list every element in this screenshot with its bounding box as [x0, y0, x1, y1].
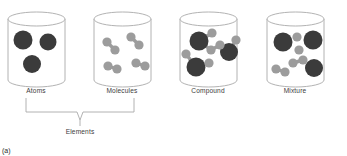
particle-small-compound-7	[181, 49, 190, 58]
label-elements-group: Elements	[66, 128, 95, 135]
figure-root: AtomsMoleculesCompoundMixtureElements(a)	[0, 0, 347, 156]
label-mixture: Mixture	[284, 87, 307, 94]
particle-large-mixture-2	[305, 59, 323, 77]
particle-small-molecules-5	[112, 64, 121, 73]
particle-small-molecules-1	[110, 45, 119, 54]
particle-large-compound-0	[190, 32, 209, 51]
figure-caption: (a)	[2, 147, 11, 155]
particle-small-mixture-4	[294, 45, 303, 54]
particle-large-atoms-1	[40, 34, 57, 51]
particle-small-molecules-3	[134, 40, 143, 49]
container-atoms	[8, 12, 65, 87]
vessels-layer	[8, 12, 324, 87]
particle-small-molecules-2	[126, 32, 135, 41]
vessel-rim-atoms	[8, 12, 65, 26]
particle-small-mixture-6	[288, 58, 297, 67]
particle-small-compound-5	[231, 35, 240, 44]
particle-small-compound-1	[207, 28, 216, 37]
labels-layer: AtomsMoleculesCompoundMixtureElements(a)	[2, 87, 307, 155]
particle-small-compound-4	[215, 40, 224, 49]
vessel-rim-molecules	[94, 12, 151, 26]
container-compound	[180, 12, 241, 87]
particle-small-compound-2	[206, 45, 215, 54]
vessel-body-atoms	[8, 19, 65, 87]
particle-large-atoms-0	[14, 31, 33, 50]
vessel-rim-mixture	[267, 12, 324, 26]
label-molecules: Molecules	[106, 87, 138, 94]
particle-small-molecules-7	[140, 61, 149, 70]
label-compound: Compound	[191, 87, 225, 95]
particle-small-molecules-0	[102, 37, 111, 46]
vessel-rim-compound	[180, 12, 237, 26]
elements-brace	[26, 98, 134, 126]
particle-small-mixture-7	[271, 64, 280, 73]
particle-large-mixture-1	[304, 31, 323, 50]
brace-elements	[26, 98, 134, 120]
particle-small-mixture-5	[298, 55, 307, 64]
particle-large-mixture-0	[274, 33, 293, 52]
chemistry-classification-diagram: AtomsMoleculesCompoundMixtureElements(a)	[0, 0, 347, 156]
container-molecules	[94, 12, 151, 87]
label-atoms: Atoms	[26, 87, 46, 94]
particle-large-atoms-2	[23, 55, 41, 73]
particle-small-molecules-6	[131, 58, 140, 67]
vessel-body-molecules	[94, 19, 151, 87]
particle-small-compound-8	[204, 58, 213, 67]
particle-small-mixture-8	[280, 67, 289, 76]
container-mixture	[267, 12, 324, 87]
particle-small-mixture-3	[292, 32, 301, 41]
particle-small-molecules-4	[103, 61, 112, 70]
particle-large-compound-6	[187, 58, 206, 77]
